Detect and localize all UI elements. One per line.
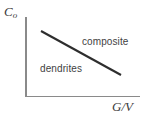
y-axis-line — [25, 17, 27, 97]
region-label-dendrites: dendrites — [40, 64, 82, 74]
y-axis-label-subscript: o — [13, 10, 18, 20]
schematic-phase-diagram: Co G/V composite dendrites — [0, 0, 148, 121]
y-axis-label-symbol: C — [4, 4, 13, 19]
region-label-composite: composite — [82, 37, 128, 47]
x-axis-line — [25, 96, 140, 98]
y-axis-label: Co — [4, 5, 17, 20]
x-axis-label: G/V — [112, 100, 133, 113]
